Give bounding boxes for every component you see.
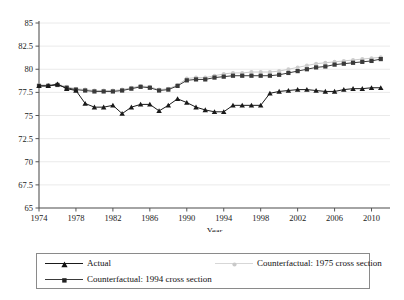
x-tick-label: 1994 xyxy=(215,213,233,223)
legend-swatch-cf-1975 xyxy=(215,259,253,269)
data-point-marker xyxy=(305,67,309,71)
data-point-marker xyxy=(323,61,327,65)
data-point-marker xyxy=(166,88,170,92)
data-point-marker xyxy=(203,77,207,81)
x-tick-label: 1986 xyxy=(141,213,158,223)
data-point-marker xyxy=(296,69,300,73)
data-point-marker xyxy=(193,105,198,110)
data-point-marker xyxy=(268,70,272,74)
legend-label-actual: Actual xyxy=(87,259,111,268)
x-axis-title: Year xyxy=(207,226,223,232)
data-point-marker xyxy=(110,103,115,108)
x-tick-label: 1974 xyxy=(31,213,49,223)
data-point-marker xyxy=(342,62,346,66)
circle-marker-icon xyxy=(231,261,238,268)
data-point-marker xyxy=(148,86,152,90)
data-point-marker xyxy=(157,88,161,92)
data-point-marker xyxy=(111,89,115,93)
x-tick-label: 2006 xyxy=(326,213,343,223)
x-tick-label: 1982 xyxy=(104,213,121,223)
data-point-marker xyxy=(259,70,263,74)
line-chart-svg: 6567.57072.57577.58082.58519741978198219… xyxy=(0,0,404,232)
data-point-marker xyxy=(286,67,290,71)
y-tick-label: 82.5 xyxy=(18,41,33,51)
data-point-marker xyxy=(296,65,300,69)
data-point-marker xyxy=(323,64,327,68)
data-point-marker xyxy=(222,75,226,79)
data-point-marker xyxy=(184,100,189,105)
data-point-marker xyxy=(379,57,383,61)
legend-item-cf-1994: Counterfactual: 1994 cross section xyxy=(45,272,212,287)
x-tick-label: 1998 xyxy=(252,213,269,223)
y-tick-label: 72.5 xyxy=(18,134,33,144)
data-point-marker xyxy=(314,62,318,66)
data-point-marker xyxy=(139,85,143,89)
legend-swatch-actual xyxy=(45,259,83,269)
data-point-marker xyxy=(351,61,355,65)
x-tick-label: 2010 xyxy=(363,213,380,223)
data-point-marker xyxy=(83,88,87,92)
data-point-marker xyxy=(332,63,336,67)
triangle-marker-icon xyxy=(61,261,68,268)
legend-swatch-cf-1994 xyxy=(45,275,83,285)
data-point-marker xyxy=(120,88,124,92)
y-tick-label: 67.5 xyxy=(18,180,33,190)
data-point-marker xyxy=(175,84,179,88)
chart-legend: Actual Counterfactual: 1975 cross sectio… xyxy=(36,253,370,289)
plot-area: 6567.57072.57577.58082.58519741978198219… xyxy=(0,0,404,232)
data-point-marker xyxy=(102,89,106,93)
square-marker-icon xyxy=(61,277,68,284)
data-point-marker xyxy=(92,89,96,93)
data-point-marker xyxy=(249,70,253,74)
legend-label-cf-1975: Counterfactual: 1975 cross section xyxy=(257,259,382,268)
data-point-marker xyxy=(277,73,281,77)
data-point-marker xyxy=(268,74,272,78)
legend-label-cf-1994: Counterfactual: 1994 cross section xyxy=(87,275,212,284)
data-point-marker xyxy=(175,96,180,101)
data-point-marker xyxy=(129,87,133,91)
series-line xyxy=(39,84,381,114)
series-line xyxy=(39,57,381,90)
legend-item-actual: Actual xyxy=(45,256,111,271)
data-point-marker xyxy=(314,65,318,69)
data-point-marker xyxy=(212,75,216,79)
data-point-marker xyxy=(305,64,309,68)
y-tick-label: 75 xyxy=(25,111,34,121)
y-tick-label: 80 xyxy=(25,64,34,74)
chart-figure: 6567.57072.57577.58082.58519741978198219… xyxy=(0,0,404,300)
y-tick-label: 77.5 xyxy=(18,87,33,97)
data-point-marker xyxy=(240,74,244,78)
data-point-marker xyxy=(286,71,290,75)
x-tick-label: 2002 xyxy=(289,213,306,223)
data-point-marker xyxy=(277,69,281,73)
y-tick-label: 65 xyxy=(25,203,34,213)
y-tick-label: 85 xyxy=(25,18,34,28)
data-point-marker xyxy=(360,60,364,64)
x-tick-label: 1990 xyxy=(178,213,195,223)
data-point-marker xyxy=(249,74,253,78)
y-tick-label: 70 xyxy=(25,157,34,167)
legend-item-cf-1975: Counterfactual: 1975 cross section xyxy=(215,256,382,271)
data-point-marker xyxy=(194,77,198,81)
series-line xyxy=(39,59,381,91)
x-tick-label: 1978 xyxy=(67,213,84,223)
data-point-marker xyxy=(185,78,189,82)
data-point-marker xyxy=(231,74,235,78)
data-point-marker xyxy=(369,59,373,63)
data-point-marker xyxy=(259,74,263,78)
